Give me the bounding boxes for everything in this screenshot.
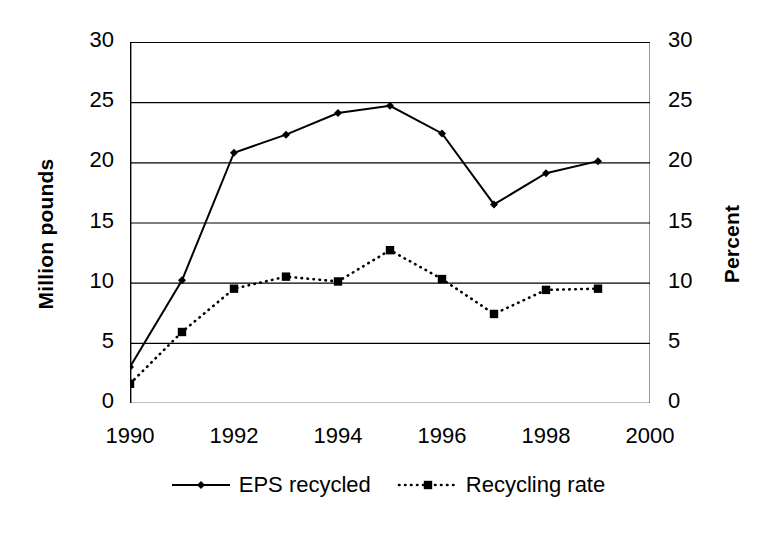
data-point-marker xyxy=(282,131,290,139)
data-point-marker xyxy=(130,380,134,388)
data-point-marker xyxy=(490,310,498,318)
y-axis-left-title: Million pounds xyxy=(34,124,58,344)
legend-item-1: EPS recycled xyxy=(170,472,371,498)
data-point-marker xyxy=(594,284,602,292)
y-axis-right-title: Percent xyxy=(720,154,744,334)
data-point-marker xyxy=(230,284,238,292)
series-line-2 xyxy=(130,250,598,384)
y-axis-left-tick-label: 20 xyxy=(74,149,114,171)
x-axis-tick-label: 1996 xyxy=(397,425,487,447)
series-line-1 xyxy=(130,106,598,367)
x-axis-tick-label: 1992 xyxy=(189,425,279,447)
plot-area xyxy=(130,42,650,403)
legend-swatch-square xyxy=(397,476,459,494)
data-point-marker xyxy=(334,109,342,117)
chart-legend: EPS recycledRecycling rate xyxy=(0,472,775,498)
x-axis-tick-label: 2000 xyxy=(605,425,695,447)
x-axis-tick-label: 1998 xyxy=(501,425,591,447)
y-axis-left-tick-label: 0 xyxy=(74,390,114,412)
y-axis-right-tick-label: 10 xyxy=(668,270,708,292)
data-point-marker xyxy=(386,246,394,254)
legend-item-2: Recycling rate xyxy=(397,472,605,498)
y-axis-right-tick-label: 5 xyxy=(668,330,708,352)
data-point-marker xyxy=(282,272,290,280)
x-axis-tick-label: 1994 xyxy=(293,425,383,447)
y-axis-right-tick-label: 20 xyxy=(668,149,708,171)
y-axis-right-tick-label: 25 xyxy=(668,89,708,111)
x-axis-tick-label: 1990 xyxy=(85,425,175,447)
y-axis-left-tick-label: 10 xyxy=(74,270,114,292)
chart-container: Million pounds Percent 051015202530 0510… xyxy=(0,0,775,539)
y-axis-left-tick-label: 5 xyxy=(74,330,114,352)
data-point-marker xyxy=(230,149,238,157)
legend-swatch-diamond xyxy=(170,476,232,494)
y-axis-right-tick-label: 0 xyxy=(668,390,708,412)
y-axis-left-tick-label: 25 xyxy=(74,89,114,111)
legend-label: EPS recycled xyxy=(239,472,371,498)
data-point-marker xyxy=(178,328,186,336)
legend-label: Recycling rate xyxy=(466,472,605,498)
data-point-marker xyxy=(438,275,446,283)
data-point-marker xyxy=(542,286,550,294)
data-point-marker xyxy=(334,277,342,285)
y-axis-left-tick-label: 30 xyxy=(74,29,114,51)
y-axis-left-tick-label: 15 xyxy=(74,210,114,232)
y-axis-right-tick-label: 30 xyxy=(668,29,708,51)
data-point-marker xyxy=(594,157,602,165)
plot-svg xyxy=(130,42,650,403)
y-axis-right-tick-label: 15 xyxy=(668,210,708,232)
